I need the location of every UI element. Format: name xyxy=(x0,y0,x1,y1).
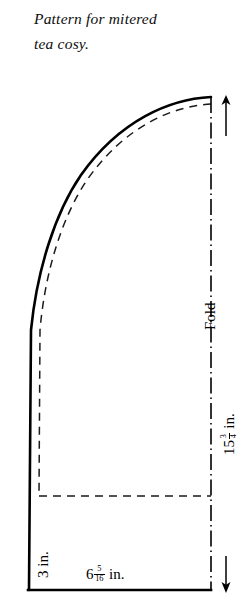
height-fraction: 34 xyxy=(220,433,239,439)
width-whole-number: 6 xyxy=(86,566,94,582)
pattern-diagram: Fold 1534 in. 3 in. 6516 in. xyxy=(0,0,252,613)
fold-label: Fold xyxy=(203,302,218,330)
width-fraction-denominator: 16 xyxy=(94,575,104,584)
height-unit: in. xyxy=(221,413,237,428)
seam-line-curve xyxy=(39,104,211,496)
pattern-outline-path xyxy=(29,97,211,590)
arrow-down-icon xyxy=(222,556,231,593)
height-dimension-label: 1534 in. xyxy=(220,413,239,455)
width-dimension-label: 6516 in. xyxy=(86,565,124,584)
height-whole-number: 15 xyxy=(221,440,237,455)
width-fraction: 516 xyxy=(94,565,104,584)
arrow-up-icon xyxy=(222,95,231,136)
depth-dimension-label: 3 in. xyxy=(36,551,51,578)
width-unit: in. xyxy=(109,566,124,582)
height-fraction-denominator: 4 xyxy=(230,433,239,439)
